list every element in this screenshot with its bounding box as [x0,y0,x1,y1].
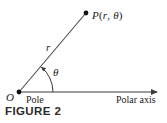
origin-label: O [6,92,14,103]
radius-ray-line [20,14,86,92]
point-p-name: P [92,9,99,21]
point-p-close-paren: ) [119,9,123,21]
point-p-label: P(r, θ) [92,10,123,21]
theta-label: θ [53,67,58,78]
polar-coordinates-figure: P(r, θ) r θ O Pole Polar axis FIGURE 2 [0,0,167,123]
point-p-dot [84,11,89,16]
figure-caption: FIGURE 2 [5,106,61,118]
pole-label: Pole [26,95,44,105]
polar-axis-label: Polar axis [116,95,156,105]
radius-label: r [46,42,50,53]
origin-point-dot [17,90,22,95]
theta-arc [41,67,53,92]
